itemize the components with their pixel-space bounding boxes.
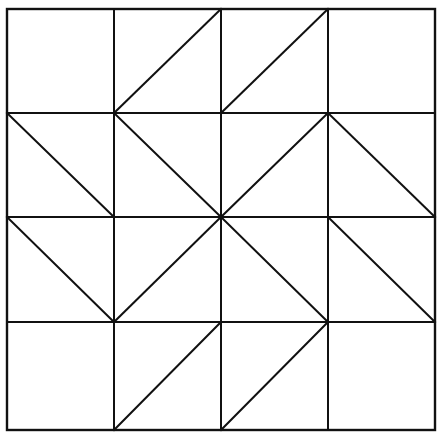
cell-diagonal-line <box>328 217 435 322</box>
cell-diagonal-line <box>114 9 221 113</box>
cell-diagonal-line <box>221 113 328 217</box>
cell-diagonal-line <box>114 322 221 430</box>
quilt-pattern-diagram <box>0 0 442 435</box>
cell-diagonal-line <box>114 217 221 322</box>
cell-diagonal-line <box>221 322 328 430</box>
cell-diagonal-line <box>328 113 435 217</box>
cell-diagonal-line <box>221 9 328 113</box>
cell-diagonal-line <box>7 113 114 217</box>
cell-diagonal-line <box>221 217 328 322</box>
cell-diagonal-line <box>114 113 221 217</box>
grid-lines <box>7 9 435 430</box>
cell-diagonal-line <box>7 217 114 322</box>
